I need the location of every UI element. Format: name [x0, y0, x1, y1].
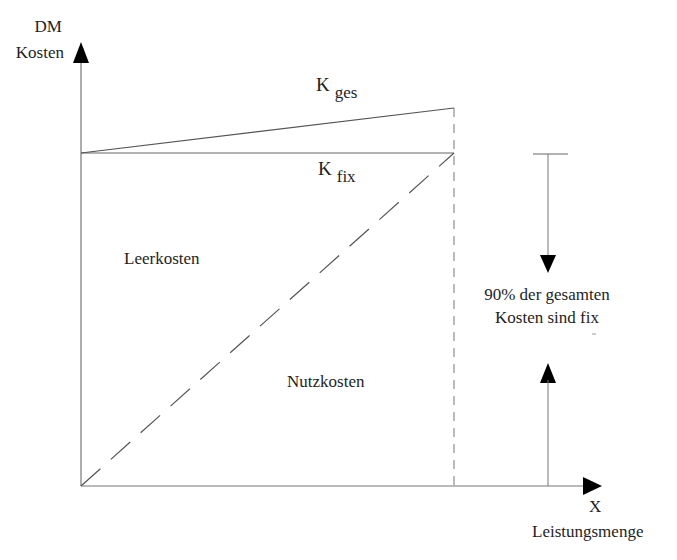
k-ges-symbol: K	[316, 74, 330, 95]
y-axis-label: Kosten	[16, 43, 64, 63]
k-fix-label: Kfix	[318, 159, 356, 180]
y-axis-unit-label: DM	[35, 17, 62, 37]
idle-costs-label: Leerkosten	[124, 249, 200, 269]
arrow-down-icon	[540, 255, 556, 273]
useful-cost-dashed-line	[81, 153, 454, 486]
k-ges-line	[81, 108, 454, 153]
k-fix-symbol: K	[318, 158, 332, 179]
annotation-line-1: 90% der gesamten	[480, 285, 614, 305]
k-ges-label: Kges	[316, 75, 357, 96]
y-axis-arrow-icon	[73, 42, 89, 63]
k-fix-subscript: fix	[337, 167, 356, 186]
annotation-text: 90% der gesamten Kosten sind fix	[480, 285, 614, 328]
x-axis-arrow-icon	[583, 477, 602, 495]
useful-costs-label: Nutzkosten	[287, 372, 364, 392]
annotation-line-2: Kosten sind fix	[480, 308, 614, 328]
x-axis-symbol: X	[589, 497, 601, 517]
x-axis-label: Leistungsmenge	[532, 522, 643, 542]
k-ges-subscript: ges	[335, 83, 358, 102]
